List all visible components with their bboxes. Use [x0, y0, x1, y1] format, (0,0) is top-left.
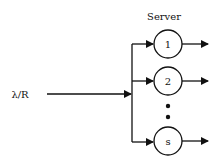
server-1: 1	[132, 30, 208, 58]
arrival-rate-label: λ/R	[11, 89, 29, 100]
ellipsis-dots	[166, 104, 170, 119]
server-label: 1	[165, 39, 171, 50]
server-title: Server	[147, 11, 181, 22]
server-2: 2	[132, 67, 208, 95]
queue-diagram: Server λ/R 1 2 s	[0, 0, 222, 168]
server-s: s	[132, 127, 208, 155]
server-label: s	[165, 136, 170, 147]
server-label: 2	[165, 76, 171, 87]
